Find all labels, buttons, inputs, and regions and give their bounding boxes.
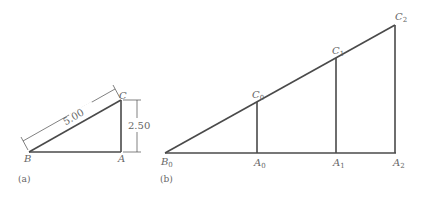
vertex-a-label: A <box>117 153 125 164</box>
caption-a: (a) <box>18 174 30 184</box>
vertex-b-label: B <box>23 153 31 164</box>
vertex-a1-label: A1 <box>332 157 345 170</box>
vertex-c-label: C <box>119 90 127 101</box>
figure-b <box>165 25 396 153</box>
vertex-c0-label: C0 <box>252 89 264 102</box>
vertex-b0-label: B0 <box>160 156 173 169</box>
similar-triangles-diagram: 5.00 2.50 B A C (a) B0 A0 A1 A2 C0 C1 C2… <box>0 0 426 198</box>
triangle-a-hypotenuse <box>29 100 121 152</box>
vertex-a0-label: A0 <box>253 157 266 170</box>
vertex-c2-label: C2 <box>395 11 407 24</box>
height-length-label: 2.50 <box>128 120 150 131</box>
triangle-b-hypotenuse <box>165 25 395 153</box>
hypotenuse-length-label: 5.00 <box>61 107 86 128</box>
vertex-a2-label: A2 <box>392 157 405 170</box>
caption-b: (b) <box>160 174 173 184</box>
